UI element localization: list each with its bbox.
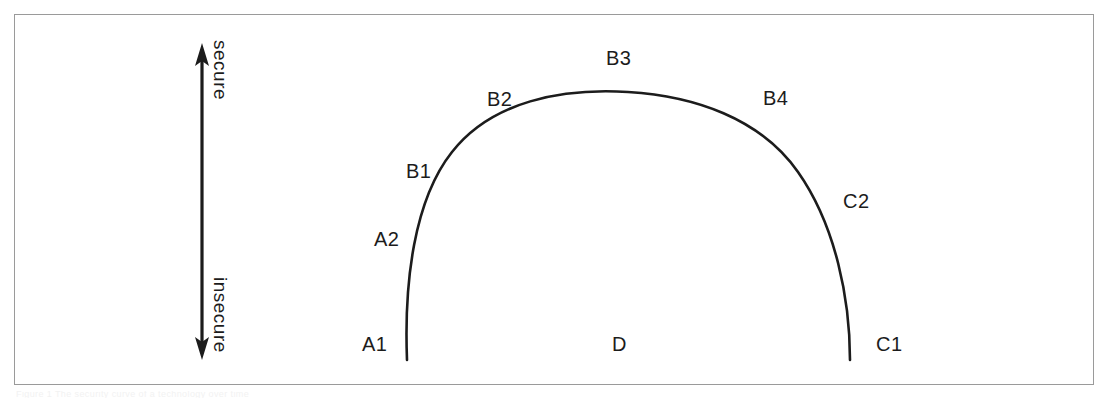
diagram-canvas <box>0 0 1106 400</box>
curve-label-b3: B3 <box>606 48 631 68</box>
curve-label-a2: A2 <box>374 229 399 249</box>
figure-caption-fragment: Figure 1 The security curve of a technol… <box>16 391 576 398</box>
security-axis-arrow <box>195 43 209 360</box>
curve-label-c1: C1 <box>876 334 903 354</box>
security-arch-curve <box>407 91 850 360</box>
curve-label-b1: B1 <box>406 161 431 181</box>
curve-label-d: D <box>612 334 627 354</box>
curve-label-c2: C2 <box>843 191 870 211</box>
figure-root: secure insecure A1 A2 B1 B2 B3 B4 C2 C1 … <box>0 0 1106 400</box>
axis-label-insecure: insecure <box>211 277 230 353</box>
axis-label-secure: secure <box>211 40 230 100</box>
curve-label-b4: B4 <box>763 88 788 108</box>
curve-label-a1: A1 <box>362 334 387 354</box>
curve-label-b2: B2 <box>487 89 512 109</box>
